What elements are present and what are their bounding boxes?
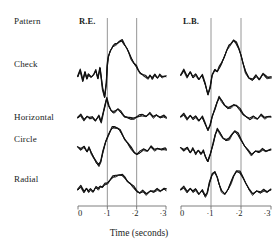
plot-canvas (0, 0, 278, 250)
erg-waveform-figure: Pattern Check Horizontal Circle Radial R… (0, 0, 278, 250)
